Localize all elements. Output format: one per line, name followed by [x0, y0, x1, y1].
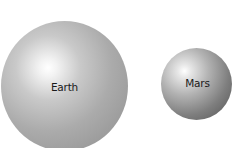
- earth-sphere: Earth: [1, 21, 128, 148]
- mars-sphere: Mars: [161, 48, 232, 120]
- mars-label: Mars: [185, 77, 209, 89]
- earth-label: Earth: [51, 81, 78, 93]
